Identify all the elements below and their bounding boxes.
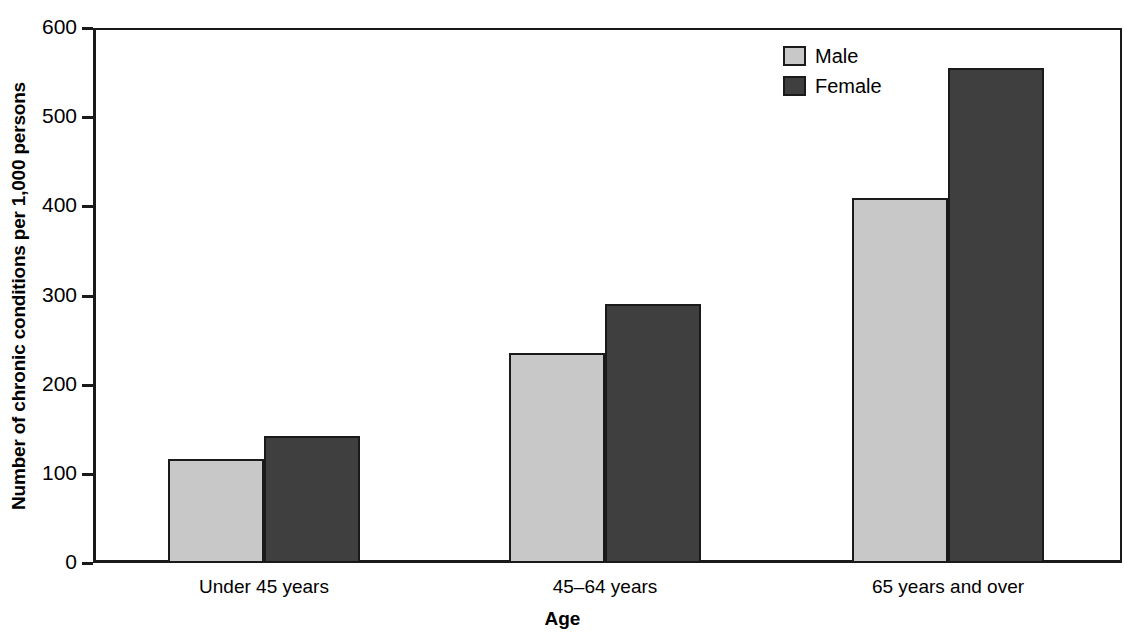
- bar-female-group-1: [264, 436, 360, 563]
- legend-item-female: Female: [783, 71, 882, 101]
- x-category-label-1: Under 45 years: [104, 576, 424, 598]
- bar-male-group-3: [852, 198, 948, 563]
- y-tick-600: 600: [0, 28, 93, 29]
- y-tick-label: 100: [42, 461, 77, 485]
- legend-item-male: Male: [783, 41, 882, 71]
- y-tick-label: 500: [42, 104, 77, 128]
- legend-label: Female: [815, 75, 882, 98]
- x-axis-title: Age: [0, 608, 1125, 630]
- bar-female-group-3: [948, 68, 1044, 563]
- legend-swatch-female: [783, 76, 806, 96]
- bar-male-group-2: [509, 353, 605, 563]
- y-tick-400: 400: [0, 206, 93, 207]
- y-tick-label: 400: [42, 193, 77, 217]
- bar-female-group-2: [605, 304, 701, 563]
- y-tick-500: 500: [0, 117, 93, 118]
- y-tick-mark: [82, 116, 93, 119]
- y-tick-label: 600: [42, 15, 77, 39]
- y-tick-mark: [82, 562, 93, 565]
- y-tick-200: 200: [0, 385, 93, 386]
- y-tick-0: 0: [0, 563, 93, 564]
- x-category-label-3: 65 years and over: [788, 576, 1108, 598]
- y-tick-label: 300: [42, 283, 77, 307]
- y-tick-100: 100: [0, 474, 93, 475]
- legend: MaleFemale: [783, 41, 882, 101]
- y-tick-300: 300: [0, 296, 93, 297]
- y-tick-mark: [82, 295, 93, 298]
- bar-male-group-1: [168, 459, 264, 563]
- legend-swatch-male: [783, 46, 806, 66]
- y-tick-mark: [82, 205, 93, 208]
- y-tick-label: 200: [42, 372, 77, 396]
- bar-chart-figure: Number of chronic conditions per 1,000 p…: [0, 0, 1125, 642]
- y-tick-mark: [82, 27, 93, 30]
- legend-label: Male: [815, 45, 858, 68]
- y-tick-mark: [82, 473, 93, 476]
- y-tick-mark: [82, 384, 93, 387]
- x-category-label-2: 45–64 years: [445, 576, 765, 598]
- y-tick-label: 0: [65, 550, 77, 574]
